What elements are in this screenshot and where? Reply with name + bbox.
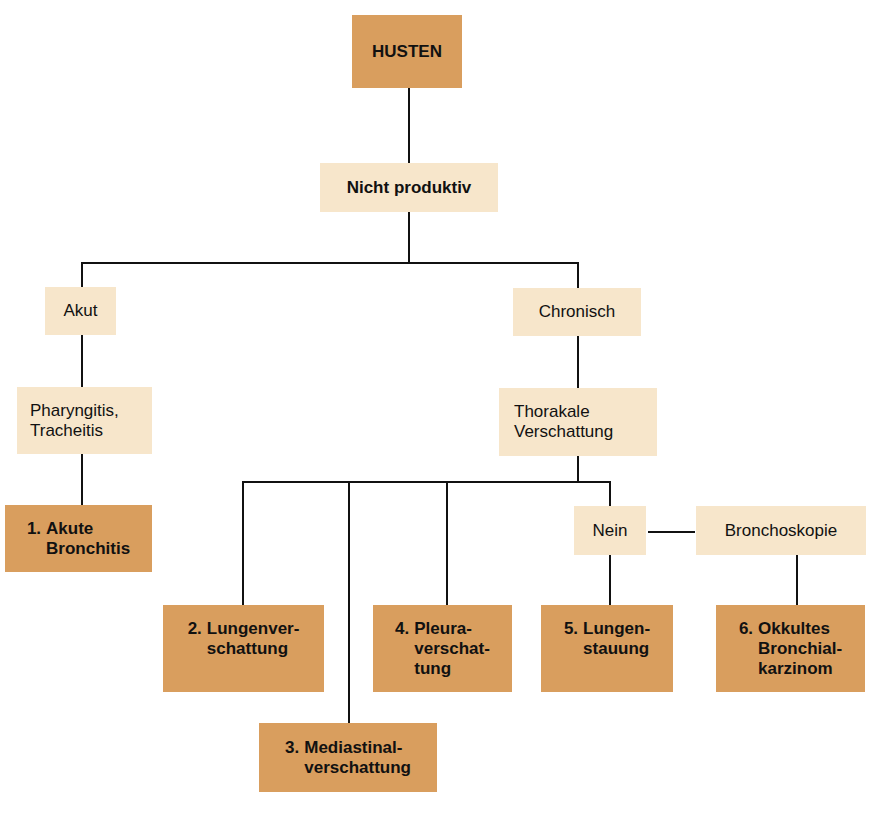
- pharyngitis-label: Pharyngitis, Tracheitis: [30, 401, 119, 441]
- connector-to-chronic: [577, 262, 579, 289]
- connector-to-lung-shadow: [242, 481, 244, 606]
- outcome-lung-shadowing: 2. Lungenver- schattung: [163, 605, 324, 692]
- outcome-number: 3.: [285, 738, 299, 758]
- outcome-pulmonary-congestion: 5. Lungen- stauung: [541, 605, 673, 692]
- no-label: Nein: [593, 521, 628, 541]
- node-bronchoscopy: Bronchoskopie: [696, 506, 866, 555]
- connector-to-acute: [81, 262, 83, 288]
- root-node-husten: HUSTEN: [352, 15, 462, 88]
- outcome-occult-bronchial-carcinoma: 6. Okkultes Bronchial- karzinom: [716, 605, 865, 692]
- connector-root-to-nonproductive: [408, 88, 410, 164]
- acute-label: Akut: [63, 301, 97, 321]
- chronic-label: Chronisch: [539, 302, 616, 322]
- connector-thoracic-down: [577, 456, 579, 483]
- non-productive-label: Nicht produktiv: [347, 178, 472, 198]
- outcome-acute-bronchitis: 1. Akute Bronchitis: [5, 505, 152, 572]
- outcome-label: Lungenver- schattung: [207, 619, 300, 659]
- outcome-label: Pleura- verschat- tung: [414, 619, 490, 679]
- outcome-label: Okkultes Bronchial- karzinom: [758, 619, 842, 679]
- node-acute: Akut: [45, 287, 116, 335]
- connector-acute-chronic-bar: [81, 262, 579, 264]
- connector-findings-bar: [242, 481, 611, 483]
- node-pharyngitis-tracheitis: Pharyngitis, Tracheitis: [17, 387, 152, 454]
- connector-no-to-congestion: [609, 555, 611, 606]
- outcome-label: Akute Bronchitis: [46, 519, 130, 559]
- connector-pharyngitis-to-bronchitis: [81, 454, 83, 506]
- connector-to-no: [609, 481, 611, 507]
- outcome-mediastinal-shadowing: 3. Mediastinal- verschattung: [259, 723, 437, 792]
- thoracic-label: Thorakale Verschattung: [514, 402, 613, 442]
- outcome-label: Mediastinal- verschattung: [304, 738, 411, 778]
- outcome-number: 1.: [27, 519, 41, 539]
- connector-nonproductive-down: [408, 212, 410, 263]
- bronchoscopy-label: Bronchoskopie: [725, 521, 837, 541]
- outcome-pleural-shadowing: 4. Pleura- verschat- tung: [373, 605, 512, 692]
- connector-to-mediastinal: [348, 481, 350, 724]
- connector-no-to-bronchoscopy: [648, 531, 695, 533]
- node-no: Nein: [574, 506, 646, 555]
- node-non-productive: Nicht produktiv: [320, 163, 498, 212]
- connector-acute-to-pharyngitis: [81, 335, 83, 388]
- outcome-number: 4.: [395, 619, 409, 639]
- connector-bronchoscopy-to-carcinoma: [796, 555, 798, 606]
- node-thoracic-shadowing: Thorakale Verschattung: [499, 388, 657, 456]
- outcome-number: 6.: [739, 619, 753, 639]
- connector-to-pleural: [446, 481, 448, 606]
- node-chronic: Chronisch: [513, 288, 641, 336]
- outcome-number: 5.: [564, 619, 578, 639]
- connector-chronic-to-thoracic: [577, 336, 579, 389]
- outcome-number: 2.: [188, 619, 202, 639]
- outcome-label: Lungen- stauung: [583, 619, 650, 659]
- root-label: HUSTEN: [372, 42, 442, 62]
